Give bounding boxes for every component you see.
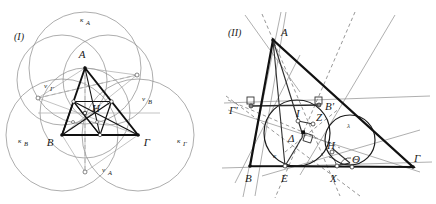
point-dot-mid-AG xyxy=(110,100,113,103)
chord-A-nuB xyxy=(85,68,137,75)
vertex-dot-G xyxy=(411,165,415,169)
panel-1-diagram: (I) A B Γ H ν A ν B ν Γ κ A κ B κ Γ xyxy=(0,0,218,204)
cevian-B-mid xyxy=(62,102,112,136)
dashed-line-4 xyxy=(228,100,340,148)
point-dot-X xyxy=(335,164,339,168)
point-dot-E xyxy=(283,164,287,168)
label-nuG-group: ν Γ xyxy=(44,82,54,92)
label-nuA-sub: A xyxy=(107,169,112,176)
point-dot-mid-AB xyxy=(72,100,75,103)
point-dot-mid-BG xyxy=(98,133,101,136)
label-Delta: Δ xyxy=(287,132,294,144)
label-E: E xyxy=(280,172,288,184)
right-angle-mark-Delta xyxy=(303,133,313,143)
label-G: Γ xyxy=(413,152,421,164)
label-lambda: λ xyxy=(346,122,350,130)
label-B: B xyxy=(245,172,252,184)
label-I: I xyxy=(295,107,301,119)
vertex-dot-B xyxy=(248,164,252,168)
label-kappa-B-sub: B xyxy=(24,140,28,147)
point-dot-inner-2 xyxy=(72,121,75,124)
point-dot-Bprime xyxy=(317,103,321,107)
label-G: Γ xyxy=(143,136,151,148)
label-kappa-A-sub: A xyxy=(85,19,90,26)
label-A: A xyxy=(78,48,86,60)
label-kappaA-group: κ A xyxy=(80,16,90,26)
chord-G-nuA xyxy=(85,135,138,172)
point-dot-Gprime xyxy=(249,104,253,108)
label-nuA-group: ν A xyxy=(102,166,112,176)
vertex-dot-A xyxy=(83,66,87,70)
label-nuB: ν xyxy=(142,95,146,103)
point-dot-Z xyxy=(311,122,315,126)
vertex-dot-B xyxy=(60,133,64,137)
point-dot-nuB xyxy=(135,73,139,77)
label-A: A xyxy=(280,26,288,38)
label-kappa-G-sub: Γ xyxy=(182,140,187,147)
figure-container: (I) A B Γ H ν A ν B ν Γ κ A κ B κ Γ xyxy=(0,0,436,204)
label-Z: Z xyxy=(316,111,323,123)
panel-1-construction-lines xyxy=(38,68,160,172)
point-dot-inner-1 xyxy=(83,111,86,114)
label-kappaB-group: κ B xyxy=(18,137,28,147)
label-Gprime: Γ' xyxy=(228,104,238,116)
panel-2-diagram: (II) A B Γ Γ' B' I Z Δ H Θ E X κ λ xyxy=(218,0,436,204)
point-dot-inner-3 xyxy=(96,121,99,124)
label-nuG-sub: Γ xyxy=(49,85,54,92)
panel-2-caption: (II) xyxy=(228,27,242,39)
vertex-dot-G xyxy=(136,133,140,137)
label-kappa-G: κ xyxy=(177,137,181,145)
label-H: H xyxy=(326,139,336,151)
center-dot-Delta xyxy=(301,130,305,134)
label-B: B xyxy=(47,136,54,148)
label-kappaG-group: κ Γ xyxy=(177,137,187,147)
label-kappa-A: κ xyxy=(80,16,84,24)
label-H: H xyxy=(91,102,101,114)
label-kappa-B: κ xyxy=(18,137,22,145)
point-dot-Theta xyxy=(350,165,354,169)
point-dot-I xyxy=(296,119,300,123)
right-angle-mark-Gprime xyxy=(247,97,254,104)
point-dot-nuG xyxy=(36,96,40,100)
vertex-dot-A xyxy=(271,38,275,42)
panel-1-caption: (I) xyxy=(14,31,25,43)
label-nuB-sub: B xyxy=(148,98,152,105)
label-X: X xyxy=(329,172,338,184)
arc-mark-X xyxy=(329,157,336,164)
label-nuB-group: ν B xyxy=(142,95,152,105)
label-Theta: Θ xyxy=(352,153,360,165)
point-dot-nuA xyxy=(83,170,87,174)
label-Bprime: B' xyxy=(325,100,335,112)
